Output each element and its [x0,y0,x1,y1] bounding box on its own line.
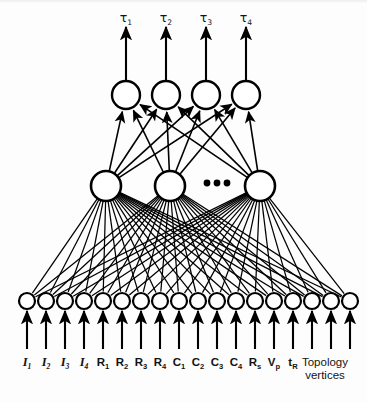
input-label-5: R2 [116,356,129,371]
input-neuron-8 [171,293,187,309]
output-neuron-group [112,81,260,109]
input-label-11: C4 [230,356,243,371]
input-label-7: R4 [154,356,167,371]
output-label-group: τ1τ2τ3τ4 [120,10,253,27]
output-result-arrows [126,27,246,81]
edge-input-1-hidden-0 [50,199,99,292]
input-neuron-9 [190,293,206,309]
output-label-1: τ2 [160,10,173,27]
output-label-0: τ1 [120,10,133,27]
input-label-12: Rs [249,356,262,371]
input-neuron-3 [76,293,92,309]
input-neuron-14 [285,293,301,309]
input-label-13: Vp [268,356,281,371]
edge-hidden-0-output-0 [109,112,122,172]
input-label-14: tR [288,356,298,371]
ellipsis-dot-1 [214,180,221,187]
input-neuron-4 [95,293,111,309]
edge-hidden-2-output-3 [249,112,258,171]
edge-hidden-2-output-2 [215,110,253,173]
input-label-10: C3 [211,356,224,371]
edge-input-12-hidden-2 [255,201,259,292]
input-label-2: I3 [60,355,70,371]
topology-label-line2: vertices [305,369,345,381]
edge-hidden-0-output-2 [117,106,193,175]
network-canvas: I1I2I3I4R1R2R3R4C1C2C3C4RsVptR τ1τ2τ3τ4 … [0,0,367,406]
input-neuron-12 [247,293,263,309]
hidden-neuron-1 [155,171,185,201]
input-label-8: C1 [173,356,186,371]
input-neuron-6 [133,293,149,309]
output-neuron-2 [192,81,220,109]
ellipsis-dot-2 [224,180,231,187]
input-neuron-group [19,293,358,309]
input-label-1: I2 [41,355,51,371]
edge-hidden-1-output-0 [133,110,163,172]
output-neuron-1 [152,81,180,109]
output-neuron-3 [232,81,260,109]
input-neuron-1 [38,293,54,309]
input-label-group: I1I2I3I4R1R2R3R4C1C2C3C4RsVptR [22,355,299,371]
input-label-6: R3 [135,356,148,371]
input-neuron-16 [323,293,339,309]
topology-vertices-label: Topologyvertices [302,356,348,381]
edge-input-17-hidden-2 [269,198,344,294]
hidden-neuron-2 [245,171,275,201]
edge-hidden-1-output-1 [167,112,170,171]
neural-network-diagram: I1I2I3I4R1R2R3R4C1C2C3C4RsVptR τ1τ2τ3τ4 … [0,0,367,406]
input-neuron-2 [57,293,73,309]
output-neuron-0 [112,81,140,109]
input-label-3: I4 [79,355,89,371]
edge-hidden-2-output-1 [178,107,249,176]
hidden-layer-ellipsis [204,180,231,187]
input-feed-arrows [27,311,350,349]
output-label-3: τ4 [240,10,253,27]
output-label-2: τ3 [200,10,213,27]
input-neuron-7 [152,293,168,309]
input-label-4: R1 [97,356,110,371]
input-neuron-15 [304,293,320,309]
input-neuron-11 [228,293,244,309]
ellipsis-dot-0 [204,180,211,187]
topology-label-line1: Topology [302,356,348,368]
input-neuron-17 [342,293,358,309]
input-neuron-0 [19,293,35,309]
scan-artifact-bottom [0,402,367,406]
input-neuron-5 [114,293,130,309]
input-neuron-13 [266,293,282,309]
input-neuron-10 [209,293,225,309]
hidden-to-output-edges [109,104,258,178]
input-label-9: C2 [192,356,205,371]
input-label-0: I1 [22,355,32,371]
hidden-neuron-0 [91,171,121,201]
input-to-hidden-edges [32,192,344,297]
